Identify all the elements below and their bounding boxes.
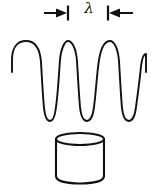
cylinder-top-ellipse <box>56 133 104 145</box>
left-arrow-head-icon <box>56 9 67 18</box>
cylinder-shape <box>56 133 104 184</box>
right-arrow-head-icon <box>109 9 120 18</box>
wavelength-lambda-label: λ <box>78 0 100 17</box>
wavelength-diagram: λ <box>0 0 159 194</box>
left-arrow-marker <box>44 6 68 21</box>
diagram-canvas <box>0 0 159 194</box>
sine-wave-curve <box>12 41 146 121</box>
cylinder-bottom-arc <box>56 176 104 184</box>
right-arrow-marker <box>108 6 133 21</box>
